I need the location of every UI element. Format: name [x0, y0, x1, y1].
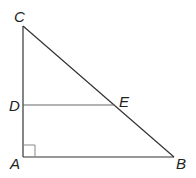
label-e: E — [119, 93, 130, 110]
segment-bc — [23, 26, 174, 157]
label-b: B — [176, 155, 186, 172]
right-angle-marker — [23, 145, 35, 157]
label-d: D — [9, 97, 20, 114]
label-a: A — [9, 155, 20, 172]
label-c: C — [14, 8, 25, 25]
triangle-diagram: C D E A B — [0, 0, 196, 178]
